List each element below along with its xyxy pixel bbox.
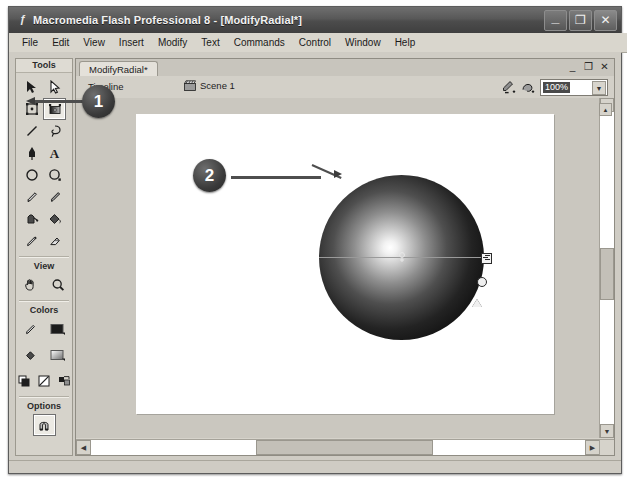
pencil-icon <box>24 323 37 336</box>
menu-window[interactable]: Window <box>338 35 388 50</box>
black-and-white-button[interactable] <box>16 370 32 392</box>
subselection-tool[interactable] <box>43 76 66 98</box>
view-tools-row <box>16 272 72 298</box>
paint-bucket-icon <box>24 349 37 362</box>
hand-tool[interactable] <box>19 274 42 296</box>
window-controls: _ ❐ ✕ <box>544 10 617 30</box>
swap-colors-button[interactable] <box>56 370 72 392</box>
scroll-right-icon: ▶ <box>590 444 595 452</box>
menu-modify[interactable]: Modify <box>151 35 194 50</box>
gradient-width-handle[interactable] <box>481 253 492 264</box>
stage[interactable]: 2 <box>136 114 554 414</box>
canvas-area[interactable]: 2 <box>76 98 614 438</box>
eyedropper-tool[interactable] <box>20 230 43 252</box>
scroll-down-icon: ▼ <box>604 428 611 435</box>
zoom-level-combobox[interactable]: 100% ▼ <box>540 79 608 96</box>
menu-view[interactable]: View <box>76 35 112 50</box>
eraser-tool[interactable] <box>43 230 66 252</box>
stroke-color[interactable] <box>19 318 42 340</box>
restore-button[interactable]: ❐ <box>569 10 592 31</box>
line-tool[interactable] <box>20 120 43 142</box>
line-icon <box>25 124 39 138</box>
callout-badge-2: 2 <box>193 159 226 192</box>
canvas-horizontal-scrollbar[interactable]: ◀ ▶ <box>76 439 600 455</box>
text-tool[interactable]: A <box>43 142 66 164</box>
document-tool-strip: Timeline Scene 1 <box>76 76 614 99</box>
gradient-center-handle[interactable] <box>398 252 406 263</box>
gradient-size-handle[interactable] <box>477 277 487 287</box>
menu-help[interactable]: Help <box>388 35 423 50</box>
restore-icon: ❐ <box>570 11 591 30</box>
fill-color[interactable] <box>19 344 42 366</box>
menu-file[interactable]: File <box>15 35 45 50</box>
no-color-button[interactable] <box>36 370 52 392</box>
eyedropper-icon <box>25 234 39 248</box>
eraser-icon <box>48 234 62 248</box>
ink-bottle-tool[interactable] <box>20 208 43 230</box>
magnifier-icon <box>51 278 65 292</box>
pencil-tool[interactable] <box>20 186 43 208</box>
flash-application-window: ƒ Macromedia Flash Professional 8 - [Mod… <box>0 0 632 484</box>
callout-1-arrow-head <box>26 97 35 105</box>
paint-bucket-tool[interactable] <box>43 208 66 230</box>
paint-bucket-icon <box>47 212 62 226</box>
panel-collapse-button[interactable]: ▲ <box>599 103 612 116</box>
zoom-level-value: 100% <box>543 82 570 93</box>
oval-tool[interactable] <box>20 164 43 186</box>
rectangle-tool[interactable] <box>43 164 66 186</box>
gradient-rotation-handle[interactable] <box>472 299 482 307</box>
menu-insert[interactable]: Insert <box>112 35 151 50</box>
tools-divider-2 <box>19 300 69 302</box>
stroke-color-row <box>16 316 72 342</box>
panel-collapse-icon: ▲ <box>603 107 609 113</box>
window-title: Macromedia Flash Professional 8 - [Modif… <box>33 12 302 28</box>
edit-symbol-icon[interactable] <box>502 81 516 94</box>
menu-edit[interactable]: Edit <box>45 35 76 50</box>
scroll-down-button[interactable]: ▼ <box>600 424 614 438</box>
menu-control[interactable]: Control <box>292 35 338 50</box>
center-point-icon <box>398 252 406 263</box>
stroke-swatch[interactable] <box>46 318 69 340</box>
document-tab-bar: ModifyRadial* _ ❐ ✕ <box>76 59 614 77</box>
horizontal-scroll-thumb[interactable] <box>256 440 433 455</box>
scroll-right-button[interactable]: ▶ <box>585 440 600 455</box>
minimize-icon: _ <box>545 11 566 30</box>
close-button[interactable]: ✕ <box>594 10 617 31</box>
selection-tool[interactable] <box>20 76 43 98</box>
view-section-header: View <box>16 260 72 272</box>
menu-commands[interactable]: Commands <box>227 35 292 50</box>
snap-to-objects-button[interactable] <box>33 414 56 436</box>
scene-clapper-icon <box>184 80 196 91</box>
zoom-tool[interactable] <box>46 274 69 296</box>
rectangle-icon <box>48 168 62 182</box>
zoom-controls: 100% ▼ <box>502 79 608 96</box>
pen-tool[interactable] <box>20 142 43 164</box>
lasso-tool[interactable] <box>43 120 66 142</box>
canvas-vertical-scrollbar[interactable]: ▲ ▼ <box>599 98 614 438</box>
scene-indicator[interactable]: Scene 1 <box>184 80 235 91</box>
scroll-left-button[interactable]: ◀ <box>76 440 91 455</box>
edit-scene-icon[interactable] <box>521 81 535 94</box>
tools-divider-3 <box>19 396 69 398</box>
fill-swatch[interactable] <box>46 344 69 366</box>
title-bar: ƒ Macromedia Flash Professional 8 - [Mod… <box>9 7 621 34</box>
callout-2-leader-line <box>231 176 321 179</box>
status-bar <box>9 460 621 473</box>
callout-2-number: 2 <box>205 166 214 185</box>
doc-minimize-button[interactable]: _ <box>567 61 578 73</box>
options-tools-row <box>16 412 72 438</box>
vertical-scroll-thumb[interactable] <box>600 248 614 300</box>
doc-close-button[interactable]: ✕ <box>599 61 610 73</box>
options-section-header: Options <box>16 400 72 412</box>
menu-text[interactable]: Text <box>194 35 226 50</box>
menu-bar: File Edit View Insert Modify Text Comman… <box>9 33 627 53</box>
scene-label: Scene 1 <box>200 80 235 91</box>
tools-panel: Tools <box>15 58 73 456</box>
chevron-down-icon[interactable]: ▼ <box>592 81 606 95</box>
document-tab-modifyradial[interactable]: ModifyRadial* <box>79 61 158 77</box>
brush-tool[interactable] <box>43 186 66 208</box>
text-a-icon: A <box>48 146 61 160</box>
minimize-button[interactable]: _ <box>544 10 567 31</box>
color-options-row <box>16 368 72 394</box>
doc-restore-button[interactable]: ❐ <box>583 61 594 73</box>
